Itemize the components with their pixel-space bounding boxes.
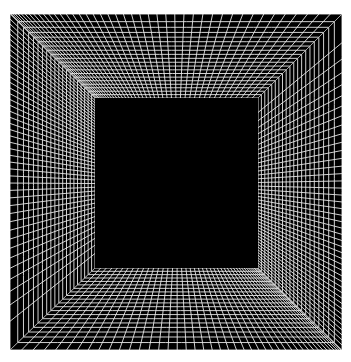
inner-black-square [95,98,258,268]
op-art-tunnel-artwork: Op-art perspective tunnel grid [0,0,351,362]
